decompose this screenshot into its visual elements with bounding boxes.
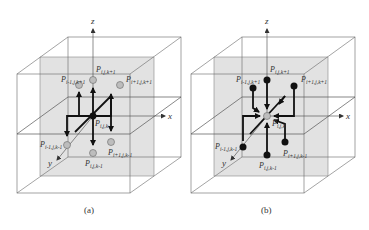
z-axis-label: z (264, 16, 269, 26)
x-axis-label: x (167, 111, 172, 121)
y-axis-label: y (47, 158, 52, 168)
point-bottom-left (64, 142, 71, 149)
point-top (264, 77, 271, 84)
point-bottom-left (240, 144, 247, 151)
diagram-canvas: z x y Pi,j,k+1 Pi-1,j,k+1 Pi+1,j,k+1 Pi,… (0, 0, 369, 230)
y-axis-label: y (221, 158, 226, 168)
point-top-right (117, 82, 124, 89)
point-top-right (291, 83, 298, 90)
point-bottom (264, 152, 271, 159)
point-top (90, 77, 97, 84)
caption-b: (b) (261, 205, 272, 215)
x-axis-label: x (345, 111, 350, 121)
shaded-plane (214, 57, 328, 176)
caption-a: (a) (84, 205, 94, 215)
point-bottom-right (282, 139, 289, 146)
point-top-left (250, 85, 257, 92)
figure-a: z x y Pi,j,k+1 Pi-1,j,k+1 Pi+1,j,k+1 Pi,… (17, 16, 181, 215)
point-center (264, 113, 271, 120)
point-bottom-right (108, 139, 115, 146)
point-bottom (90, 150, 97, 157)
z-axis-label: z (90, 16, 95, 26)
figure-b: z x y Pi,j,k+1 Pi-1,j,k+1 Pi+1,j,k+1 Pi,… (191, 16, 355, 215)
